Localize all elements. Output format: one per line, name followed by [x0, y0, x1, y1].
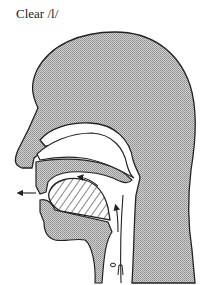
vocal-tract-diagram [0, 0, 207, 285]
epiglottis-mark [111, 263, 116, 267]
airflow-arrow-up-pharynx [116, 207, 118, 232]
